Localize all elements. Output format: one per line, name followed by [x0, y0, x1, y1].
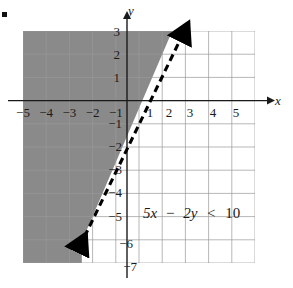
inequality-annotation: 5x − 2y < 10 [143, 205, 240, 221]
inequality-rhs: 10 [225, 205, 240, 221]
inequality-graph-figure: −5 −4 −3 −2 −1 1 2 3 4 5 3 2 1 −1 −2 −3 … [0, 0, 293, 288]
y-tick-label: 1 [114, 70, 121, 85]
x-tick-label: 4 [210, 105, 217, 120]
y-tick-label: −4 [108, 185, 122, 200]
y-tick-label: −5 [108, 209, 122, 224]
y-tick-label: −1 [108, 116, 122, 131]
x-tick-label: 1 [147, 105, 154, 120]
inequality-term-x: 5x [143, 205, 158, 221]
inequality-term-y: 2y [183, 205, 198, 221]
x-tick-label: −3 [62, 105, 76, 120]
y-tick-label: −2 [108, 139, 122, 154]
x-tick-label: −5 [16, 105, 30, 120]
x-tick-label: −4 [39, 105, 53, 120]
coordinate-plane-svg: −5 −4 −3 −2 −1 1 2 3 4 5 3 2 1 −1 −2 −3 … [0, 0, 293, 288]
bullet-marker-icon [2, 12, 7, 17]
inequality-minus-sign: − [166, 205, 174, 221]
y-tick-label: −7 [123, 259, 137, 274]
x-axis-label: x [274, 93, 281, 108]
inequality-relation: < [207, 205, 215, 221]
y-axis-label: y [126, 3, 134, 18]
x-tick-label: −2 [86, 105, 100, 120]
x-tick-label: 3 [187, 105, 194, 120]
y-tick-label: 3 [114, 24, 121, 39]
y-tick-label: −6 [119, 236, 133, 251]
y-tick-label: −3 [108, 162, 122, 177]
y-tick-label: 2 [114, 47, 121, 62]
x-tick-label: 5 [233, 105, 240, 120]
x-tick-label: 2 [166, 105, 173, 120]
